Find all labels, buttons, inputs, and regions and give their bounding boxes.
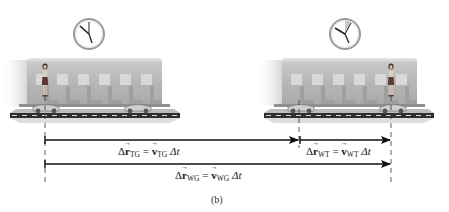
subscript: WT xyxy=(318,150,330,159)
r-vector: r xyxy=(313,146,318,157)
equation-WT: ΔrWT = vWT Δt xyxy=(306,146,371,159)
equation-TG: ΔrTG = vTG Δt xyxy=(118,146,179,159)
velocity-subscript: WT xyxy=(347,150,359,159)
r-vector: r xyxy=(125,146,130,157)
train-car-initial xyxy=(0,58,170,113)
equals-sign: = xyxy=(332,145,338,157)
v-vector: v xyxy=(211,170,217,181)
delta-t: Δt xyxy=(232,169,242,181)
clock-initial xyxy=(73,18,105,50)
scene-final xyxy=(255,18,434,123)
clock-final xyxy=(329,18,361,50)
v-vector: v xyxy=(152,146,158,157)
scene-initial xyxy=(0,18,180,123)
delta-t: Δt xyxy=(170,145,180,157)
delta-t: Δt xyxy=(361,145,371,157)
figure-caption: (b) xyxy=(211,194,223,205)
train-car-final xyxy=(255,58,425,113)
v-vector: v xyxy=(341,146,347,157)
velocity-subscript: WG xyxy=(217,174,230,183)
r-vector: r xyxy=(182,170,187,181)
equals-sign: = xyxy=(143,145,149,157)
relative-motion-diagram: ΔrTG = vTG Δt ΔrWT = vWT Δt ΔrWG = vWG Δ… xyxy=(0,0,449,212)
subscript: TG xyxy=(130,150,140,159)
velocity-subscript: TG xyxy=(157,150,167,159)
equals-sign: = xyxy=(202,169,208,181)
equation-WG: ΔrWG = vWG Δt xyxy=(175,170,241,183)
subscript: WG xyxy=(187,174,200,183)
